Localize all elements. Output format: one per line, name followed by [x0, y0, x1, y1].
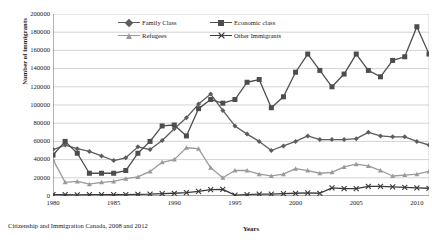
data-point — [232, 97, 237, 102]
data-point — [245, 80, 250, 85]
data-point — [172, 123, 177, 128]
data-point — [390, 134, 395, 139]
series-other-immigrants — [53, 184, 429, 196]
data-point — [317, 68, 322, 73]
data-point — [366, 130, 371, 135]
legend-label: Economic class — [234, 19, 275, 26]
data-point — [378, 133, 383, 138]
data-point — [148, 139, 153, 144]
legend-key-triangle-icon — [118, 31, 140, 40]
data-point — [427, 52, 430, 57]
y-tick-label: 140000 — [2, 65, 50, 72]
legend-key-x-icon — [210, 31, 232, 40]
data-point — [75, 146, 80, 151]
x-tick-label: 1995 — [228, 200, 241, 207]
data-point — [427, 143, 430, 148]
y-tick-label: 40000 — [2, 156, 50, 163]
data-point — [111, 171, 116, 176]
chart-figure: Number of immigrants Years Citizenship a… — [0, 0, 432, 246]
data-point — [220, 101, 225, 106]
y-tick-label: 180000 — [2, 29, 50, 36]
data-point — [427, 169, 430, 174]
x-tick-label: 1985 — [107, 200, 120, 207]
data-point — [53, 147, 56, 152]
data-point — [354, 136, 359, 141]
series-line — [53, 94, 429, 160]
y-tick-label: 120000 — [2, 84, 50, 91]
series-refugees — [53, 145, 429, 186]
series-family-class — [53, 92, 429, 163]
data-point — [354, 52, 359, 57]
legend-item-other-immigrants: Other Immigrants — [210, 29, 310, 42]
data-point — [293, 139, 298, 144]
data-point — [160, 123, 165, 128]
legend-label: Other Immigrants — [234, 32, 281, 39]
data-point — [111, 158, 116, 163]
x-tick-label: 2000 — [289, 200, 302, 207]
data-point — [63, 139, 68, 144]
data-point — [378, 74, 383, 79]
y-tick-label: 160000 — [2, 47, 50, 54]
data-point — [257, 77, 262, 82]
x-tick-label: 1980 — [46, 200, 59, 207]
data-point — [414, 139, 419, 144]
data-point — [281, 143, 286, 148]
data-point — [87, 149, 92, 154]
data-point — [196, 106, 201, 111]
x-tick-label: 2010 — [410, 200, 423, 207]
legend-item-family-class: Family Class — [118, 16, 210, 29]
x-tick-label: 1990 — [168, 200, 181, 207]
legend-key-square-icon — [210, 18, 232, 27]
series-line — [53, 148, 429, 184]
data-point — [75, 151, 80, 156]
data-point — [269, 105, 274, 110]
legend-item-economic-class: Economic class — [210, 16, 310, 29]
data-point — [87, 171, 92, 176]
y-tick-label: 60000 — [2, 138, 50, 145]
legend-label: Family Class — [142, 19, 177, 26]
y-tick-label: 200000 — [2, 11, 50, 18]
data-point — [366, 68, 371, 73]
data-point — [390, 58, 395, 63]
x-tick-label: 2005 — [350, 200, 363, 207]
data-point — [281, 94, 286, 99]
legend-label: Refugees — [142, 32, 167, 39]
series-line — [53, 186, 429, 195]
data-point — [305, 133, 310, 138]
data-point — [402, 54, 407, 59]
y-tick-label: 80000 — [2, 120, 50, 127]
data-point — [293, 70, 298, 75]
y-tick-label: 0 — [2, 193, 50, 200]
data-point — [99, 153, 104, 158]
y-tick-label: 100000 — [2, 102, 50, 109]
data-point — [414, 24, 419, 29]
legend-item-refugees: Refugees — [118, 29, 210, 42]
data-point — [402, 134, 407, 139]
data-point — [305, 52, 310, 57]
data-point — [53, 153, 56, 158]
y-tick-label: 20000 — [2, 175, 50, 182]
data-point — [208, 97, 213, 102]
series-economic-class — [53, 24, 429, 176]
data-point — [184, 133, 189, 138]
chart-legend: Family ClassEconomic classRefugeesOther … — [118, 16, 310, 42]
legend-key-diamond-icon — [118, 18, 140, 27]
data-point — [329, 84, 334, 89]
data-point — [135, 151, 140, 156]
series-line — [53, 27, 429, 174]
data-point — [99, 171, 104, 176]
data-point — [342, 72, 347, 77]
data-point — [123, 168, 128, 173]
